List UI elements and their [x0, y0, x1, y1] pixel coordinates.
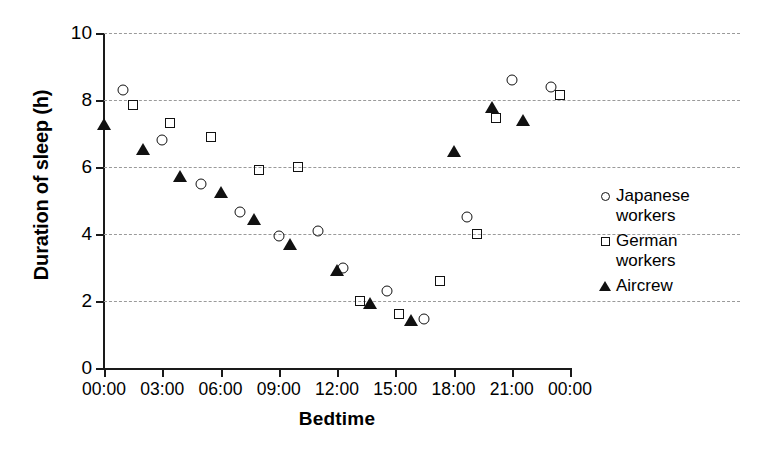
legend-label-0: Japanese workers [616, 186, 690, 226]
legend-open-square-icon [600, 231, 616, 252]
data-point-aircrew-11 [516, 114, 530, 126]
open-square-icon [601, 237, 610, 246]
open-circle-icon [601, 192, 610, 201]
data-point-japanese-workers-2 [196, 178, 207, 189]
data-point-japanese-workers-7 [382, 285, 393, 296]
x-tick-15:00 [395, 368, 397, 377]
legend-entry-1: German workers [600, 231, 752, 271]
x-tick-label-8: 00:00 [530, 381, 610, 399]
data-point-aircrew-1 [136, 143, 150, 155]
y-tick-label-0: 0 [48, 358, 92, 377]
legend-entry-0: Japanese workers [600, 186, 752, 226]
x-tick-00:00 [570, 368, 572, 377]
data-point-aircrew-9 [447, 145, 461, 157]
data-point-aircrew-2 [173, 170, 187, 182]
data-point-german-workers-4 [293, 162, 303, 172]
y-tick-label-6: 6 [48, 157, 92, 176]
data-point-japanese-workers-3 [234, 207, 245, 218]
data-point-german-workers-7 [435, 276, 445, 286]
data-point-german-workers-6 [394, 309, 404, 319]
gridline-y-8 [104, 100, 740, 101]
data-point-german-workers-9 [491, 113, 501, 123]
data-point-aircrew-3 [214, 186, 228, 198]
data-point-german-workers-3 [254, 165, 264, 175]
data-point-aircrew-10 [485, 101, 499, 113]
y-tick-label-8: 8 [48, 90, 92, 109]
x-tick-21:00 [512, 368, 514, 377]
legend-filled-triangle-icon [600, 276, 616, 297]
data-point-german-workers-8 [472, 229, 482, 239]
data-point-japanese-workers-10 [506, 74, 517, 85]
sleep-duration-scatter-chart: Duration of sleep (h) 0246810 00:0003:00… [0, 0, 758, 463]
data-point-japanese-workers-8 [419, 314, 430, 325]
data-point-german-workers-10 [555, 90, 565, 100]
y-tick-label-10: 10 [48, 23, 92, 42]
legend-entry-2: Aircrew [600, 276, 752, 297]
x-tick-18:00 [454, 368, 456, 377]
y-tick-label-4: 4 [48, 224, 92, 243]
data-point-japanese-workers-5 [312, 225, 323, 236]
data-point-aircrew-6 [330, 264, 344, 276]
data-point-german-workers-1 [165, 118, 175, 128]
x-tick-03:00 [162, 368, 164, 377]
x-tick-06:00 [221, 368, 223, 377]
data-point-german-workers-2 [206, 132, 216, 142]
x-tick-09:00 [279, 368, 281, 377]
x-tick-00:00 [104, 368, 106, 377]
x-tick-12:00 [337, 368, 339, 377]
x-axis-title: Bedtime [104, 408, 570, 430]
data-point-aircrew-4 [247, 213, 261, 225]
data-point-german-workers-0 [128, 100, 138, 110]
chart-legend: Japanese workersGerman workersAircrew [600, 186, 752, 302]
data-point-japanese-workers-0 [118, 84, 129, 95]
gridline-y-6 [104, 167, 740, 168]
data-point-aircrew-7 [363, 297, 377, 309]
data-point-japanese-workers-9 [462, 212, 473, 223]
data-point-aircrew-5 [283, 238, 297, 250]
y-tick-label-2: 2 [48, 291, 92, 310]
legend-label-1: German workers [616, 231, 677, 271]
data-point-aircrew-8 [404, 314, 418, 326]
legend-open-circle-icon [600, 186, 616, 207]
legend-label-2: Aircrew [616, 276, 673, 296]
data-point-japanese-workers-1 [157, 135, 168, 146]
gridline-y-10 [104, 33, 740, 34]
data-point-aircrew-0 [97, 118, 111, 130]
filled-triangle-icon [599, 281, 611, 291]
